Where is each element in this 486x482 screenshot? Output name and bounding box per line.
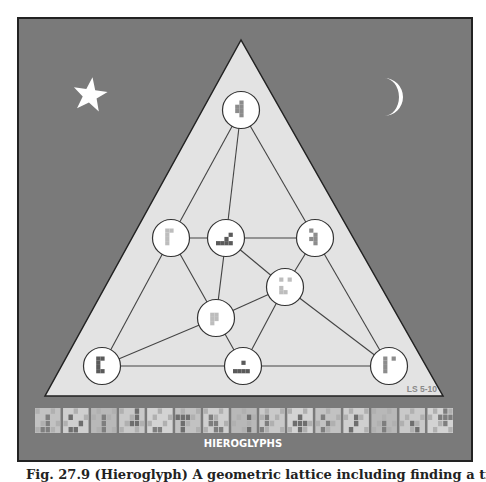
glyph-cell (383, 369, 387, 373)
figure-caption: Fig. 27.9 (Hieroglyph) A geometric latti… (26, 468, 486, 482)
glyph-cell (283, 290, 287, 294)
glyph-cell (237, 369, 241, 373)
glyph-cell (239, 101, 243, 105)
glyph-cell (239, 109, 243, 113)
glyph-cell (210, 313, 214, 317)
glyph-cell (233, 369, 237, 373)
strip-glyph-tile (63, 408, 89, 433)
strip-glyph-tile (119, 408, 145, 433)
glyph-cell (288, 278, 292, 282)
glyph-cell (224, 241, 228, 245)
lattice-node-n3[interactable] (208, 220, 245, 257)
glyph-cell (210, 317, 214, 321)
glyph-cell (169, 229, 173, 233)
glyph-cell (239, 113, 243, 117)
glyph-cell (220, 241, 224, 245)
glyph-cell (165, 237, 169, 241)
glyph-cell (229, 233, 233, 237)
glyph-cell (165, 233, 169, 237)
strip-glyph-tile (91, 408, 117, 433)
lattice-node-n8[interactable] (225, 348, 262, 385)
strip-glyph-tile (287, 408, 313, 433)
strip-glyph-tile (259, 408, 285, 433)
glyph-cell (279, 278, 283, 282)
glyph-cell (100, 357, 104, 361)
glyph-cell (210, 321, 214, 325)
glyph-cell (216, 241, 220, 245)
glyph-cell (383, 357, 387, 361)
lattice-node-n1[interactable] (223, 92, 260, 129)
strip-glyph-tile (175, 408, 201, 433)
glyph-cell (224, 237, 228, 241)
strip-glyph-tile (231, 408, 257, 433)
glyph-cell (165, 241, 169, 245)
glyph-cell (241, 361, 245, 365)
strip-glyph-tile (203, 408, 229, 433)
glyph-cell (235, 105, 239, 109)
strip-glyph-tile (147, 408, 173, 433)
strip-glyph-tile (427, 408, 453, 433)
lattice-node-n4[interactable] (297, 220, 334, 257)
glyph-cell (214, 317, 218, 321)
glyph-cell (392, 357, 396, 361)
puzzle-title: HIEROGLYPHS (204, 438, 282, 449)
glyph-cell (313, 237, 317, 241)
lattice-node-n9[interactable] (371, 348, 408, 385)
glyph-cell (96, 369, 100, 373)
lattice-node-n2[interactable] (153, 220, 190, 257)
glyph-cell (309, 237, 313, 241)
glyph-cell (279, 290, 283, 294)
glyph-cell (239, 105, 243, 109)
strip-glyph-tile (35, 408, 61, 433)
glyph-cell (279, 286, 283, 290)
strip-glyph-tile (371, 408, 397, 433)
glyph-cell (383, 365, 387, 369)
glyph-cell (96, 357, 100, 361)
strip-glyph-tile (315, 408, 341, 433)
glyph-cell (96, 361, 100, 365)
glyph-cell (100, 369, 104, 373)
glyph-cell (383, 361, 387, 365)
glyph-cell (313, 233, 317, 237)
glyph-cell (309, 229, 313, 233)
strip-glyph-tile (399, 408, 425, 433)
lattice-node-n7[interactable] (84, 348, 121, 385)
glyph-cell (235, 109, 239, 113)
glyph-cell (165, 229, 169, 233)
glyph-cell (313, 241, 317, 245)
glyph-cell (96, 365, 100, 369)
strip-glyph-tile (343, 408, 369, 433)
glyph-cell (246, 369, 250, 373)
lattice-node-n6[interactable] (198, 300, 235, 337)
hieroglyph-strip (35, 408, 453, 433)
puzzle-code-label: LS 5-10 (407, 384, 438, 394)
glyph-cell (214, 313, 218, 317)
lattice-node-n5[interactable] (267, 269, 304, 306)
glyph-cell (229, 241, 233, 245)
glyph-cell (241, 369, 245, 373)
